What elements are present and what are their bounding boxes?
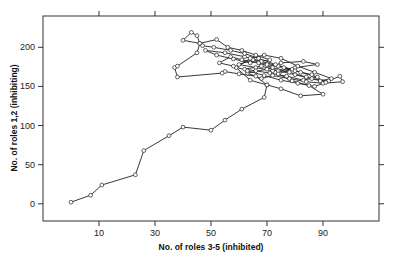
data-point xyxy=(209,128,213,132)
y-tick-label: 150 xyxy=(20,81,35,91)
x-axis: 1030507090 xyxy=(94,221,328,238)
data-point xyxy=(220,71,224,75)
data-point xyxy=(237,63,241,67)
y-tick-label: 0 xyxy=(30,199,35,209)
data-point xyxy=(307,84,311,88)
data-point xyxy=(176,75,180,79)
x-tick-label: 30 xyxy=(150,228,160,238)
data-point xyxy=(262,96,266,100)
data-point xyxy=(260,77,264,81)
data-point xyxy=(142,149,146,153)
data-point xyxy=(248,78,252,82)
data-point xyxy=(248,61,252,65)
y-tick-label: 50 xyxy=(25,160,35,170)
data-point xyxy=(195,34,199,38)
data-point xyxy=(271,66,275,70)
data-point xyxy=(330,77,334,81)
data-point xyxy=(288,70,292,74)
data-point xyxy=(310,73,314,77)
data-point xyxy=(254,69,258,73)
data-point xyxy=(215,38,219,42)
data-point xyxy=(246,69,250,73)
data-point xyxy=(310,77,314,81)
y-tick-label: 100 xyxy=(20,121,35,131)
data-point xyxy=(296,81,300,85)
data-point xyxy=(232,64,236,68)
data-point xyxy=(257,56,261,60)
data-point xyxy=(324,81,328,85)
data-point xyxy=(299,70,303,74)
data-point xyxy=(279,61,283,65)
data-point xyxy=(282,66,286,70)
data-point xyxy=(100,183,104,187)
data-point xyxy=(341,80,345,84)
data-point xyxy=(254,74,258,78)
data-point xyxy=(195,51,199,55)
data-point xyxy=(265,63,269,67)
data-point xyxy=(279,87,283,91)
data-point xyxy=(265,83,269,87)
data-point xyxy=(212,45,216,49)
data-point xyxy=(248,56,252,60)
data-point xyxy=(279,56,283,60)
x-tick-label: 10 xyxy=(94,228,104,238)
data-point xyxy=(240,107,244,111)
data-point xyxy=(338,74,342,78)
data-point xyxy=(274,63,278,67)
data-point xyxy=(204,49,208,53)
x-axis-label: No. of roles 3-5 (inhibited) xyxy=(159,242,264,252)
data-point xyxy=(243,52,247,56)
series-group xyxy=(69,31,344,205)
data-point xyxy=(229,55,233,59)
data-point xyxy=(304,80,308,84)
data-point xyxy=(304,75,308,79)
data-point xyxy=(69,200,73,204)
data-point xyxy=(276,72,280,76)
data-point xyxy=(265,67,269,71)
data-point xyxy=(201,44,205,48)
data-point xyxy=(240,58,244,62)
data-point xyxy=(181,38,185,42)
data-point xyxy=(316,63,320,67)
data-point xyxy=(313,85,317,89)
x-tick-label: 90 xyxy=(318,228,328,238)
y-axis-right xyxy=(379,47,384,203)
data-point xyxy=(215,53,219,57)
y-axis-label: No. of roles 1,2 (inhibiting) xyxy=(9,64,19,171)
data-point xyxy=(318,79,322,83)
data-point xyxy=(262,53,266,57)
data-point xyxy=(290,79,294,83)
x-axis-top xyxy=(99,11,323,16)
data-point xyxy=(268,58,272,62)
data-point xyxy=(167,134,171,138)
data-point xyxy=(302,60,306,64)
data-point xyxy=(237,72,241,76)
data-point xyxy=(316,75,320,79)
data-point xyxy=(299,94,303,98)
data-point xyxy=(293,69,297,73)
data-point xyxy=(254,53,258,57)
data-point xyxy=(176,64,180,68)
data-point xyxy=(240,49,244,53)
data-point xyxy=(134,173,138,177)
y-axis: 050100150200 xyxy=(20,42,43,208)
data-point xyxy=(257,61,261,65)
data-point xyxy=(218,61,222,65)
data-point xyxy=(226,45,230,49)
data-point xyxy=(279,78,283,82)
data-point xyxy=(89,193,93,197)
data-point xyxy=(223,51,227,55)
data-point xyxy=(321,92,325,96)
chart: 1030507090 050100150200 No. of roles 3-5… xyxy=(0,0,393,261)
x-tick-label: 50 xyxy=(206,228,216,238)
data-point xyxy=(229,49,233,53)
series-line xyxy=(71,32,343,202)
data-point xyxy=(296,64,300,68)
data-point xyxy=(181,125,185,129)
x-tick-label: 70 xyxy=(262,228,272,238)
data-point xyxy=(260,64,264,68)
data-point xyxy=(262,74,266,78)
data-point xyxy=(293,73,297,77)
data-point xyxy=(223,118,227,122)
data-point xyxy=(190,31,194,35)
